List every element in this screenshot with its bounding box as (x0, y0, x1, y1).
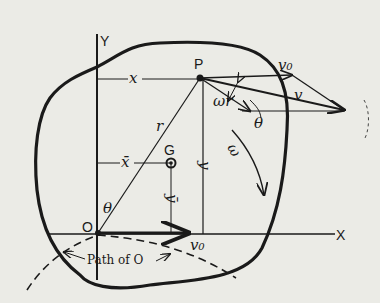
point-p-label: P (194, 56, 203, 72)
rigid-body-diagram: Y X v₀ O Path of O x P r θ y x̄ ȳ G v₀ v… (0, 0, 380, 303)
path-label-arrow-right (156, 254, 170, 261)
r-label: r (156, 117, 164, 135)
x-bar-label: x̄ (121, 153, 130, 171)
margin-mark (364, 100, 369, 140)
point-g-label: G (164, 142, 175, 158)
omega-rotation-arrow (232, 130, 264, 195)
y-axis-label: Y (100, 33, 110, 49)
v0-top-label: v₀ (278, 56, 293, 74)
theta-velocity-label: θ (254, 114, 263, 132)
path-of-origin-label: Path of O (87, 253, 144, 267)
omega-r-label: ωr (213, 92, 233, 110)
y-label: y (196, 160, 214, 170)
v0-bottom-label: v₀ (190, 236, 205, 254)
x-axis-label: X (336, 227, 346, 243)
omega-label: ω (223, 140, 245, 160)
radius-line (98, 78, 200, 233)
v-label: v (294, 86, 303, 104)
path-label-arrow-left (64, 252, 85, 259)
y-bar-label: ȳ (163, 193, 181, 203)
origin-label: O (82, 219, 93, 235)
x-label: x (129, 69, 138, 87)
theta-origin-label: θ (103, 199, 112, 217)
